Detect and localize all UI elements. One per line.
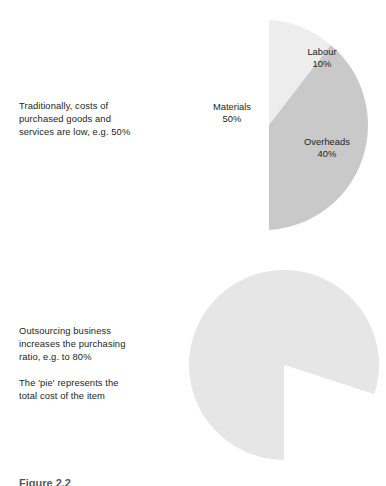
label-materials-value: 50%: [223, 113, 242, 124]
outsourced-pie-chart: [189, 265, 386, 457]
panel-outsourced: Outsourcing business increases the purch…: [0, 243, 386, 486]
label-overheads: Overheads40%: [288, 136, 366, 161]
label-materials-name: Materials: [213, 101, 251, 112]
outsourcing-description: Outsourcing business increases the purch…: [19, 324, 195, 364]
panel-traditional: Traditionally, costs of purchased goods …: [0, 0, 386, 243]
label-labour: Labour10%: [290, 46, 354, 71]
figure-container: Traditionally, costs of purchased goods …: [0, 0, 386, 486]
outsourced-pie-svg: [189, 265, 386, 457]
label-labour-value: 10%: [313, 58, 332, 69]
label-overheads-value: 40%: [318, 148, 337, 159]
label-overheads-name: Overheads: [304, 136, 350, 147]
pie-meaning-description: The 'pie' represents the total cost of t…: [19, 376, 195, 402]
label-materials: Materials50%: [196, 101, 268, 126]
figure-caption: Figure 2.2: [19, 476, 319, 486]
label-labour-name: Labour: [307, 46, 336, 57]
